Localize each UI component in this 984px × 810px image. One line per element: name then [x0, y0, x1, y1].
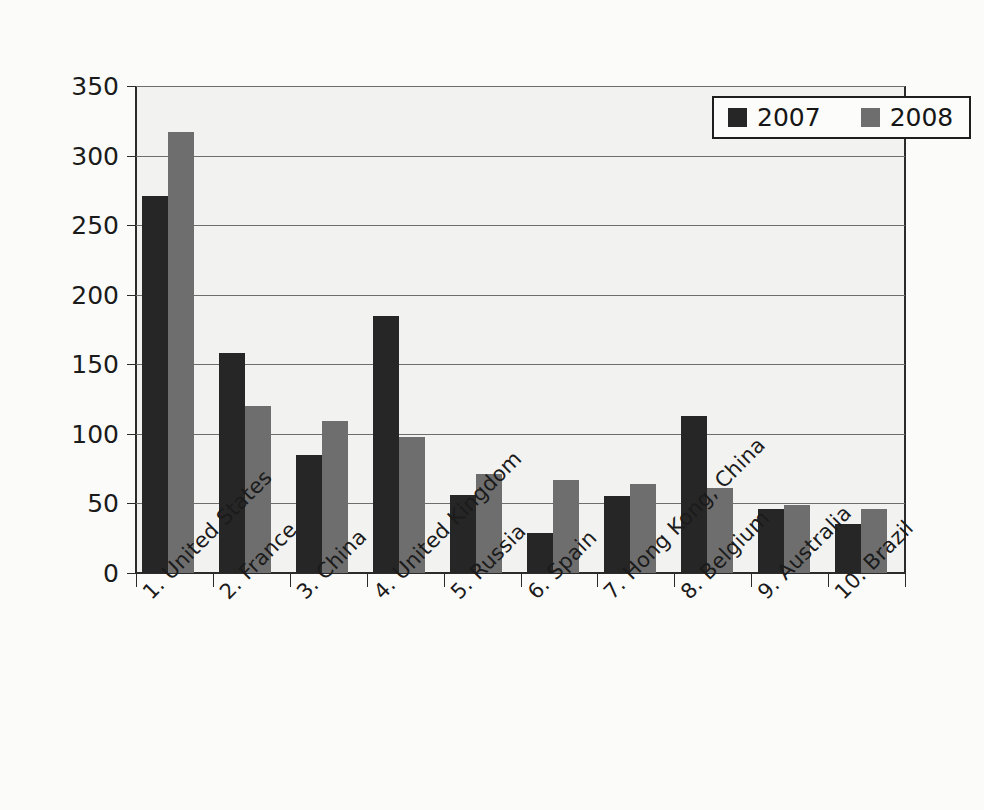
- y-tick-label: 300: [0, 141, 119, 170]
- x-tick-mark: [136, 574, 137, 587]
- y-tick-mark: [127, 364, 136, 365]
- x-tick-mark: [597, 574, 598, 587]
- y-tick-label: 250: [0, 211, 119, 240]
- y-tick-label: 150: [0, 350, 119, 379]
- gray-square-swatch-icon: [861, 108, 880, 127]
- x-tick-mark: [905, 574, 906, 587]
- x-tick-mark: [828, 574, 829, 587]
- legend-label-2007: 2007: [757, 105, 821, 130]
- y-tick-label: 50: [0, 489, 119, 518]
- y-tick-label: 200: [0, 280, 119, 309]
- legend-label-2008: 2008: [890, 105, 954, 130]
- legend-entry-2008: 2008: [861, 105, 954, 130]
- y-tick-mark: [127, 503, 136, 504]
- x-tick-mark: [290, 574, 291, 587]
- y-tick-label: 350: [0, 72, 119, 101]
- chart-legend: 2007 2008: [712, 96, 971, 139]
- x-tick-mark: [367, 574, 368, 587]
- y-tick-mark: [127, 86, 136, 87]
- bar-2007-1: [142, 196, 168, 573]
- legend-entry-2007: 2007: [728, 105, 821, 130]
- y-tick-mark: [127, 573, 136, 574]
- x-tick-mark: [674, 574, 675, 587]
- bar-2007-3: [296, 455, 322, 573]
- y-tick-label: 100: [0, 419, 119, 448]
- x-tick-mark: [751, 574, 752, 587]
- y-tick-mark: [127, 434, 136, 435]
- bar-2007-2: [219, 353, 245, 573]
- bar-2007-4: [373, 316, 399, 573]
- y-tick-mark: [127, 156, 136, 157]
- y-tick-mark: [127, 295, 136, 296]
- bar-chart-figure: 050100150200250300350 1. United States2.…: [0, 0, 984, 810]
- x-tick-mark: [213, 574, 214, 587]
- x-tick-mark: [521, 574, 522, 587]
- y-tick-mark: [127, 225, 136, 226]
- black-square-swatch-icon: [728, 108, 747, 127]
- bar-2008-1: [168, 132, 194, 573]
- y-tick-label: 0: [0, 559, 119, 588]
- x-tick-mark: [444, 574, 445, 587]
